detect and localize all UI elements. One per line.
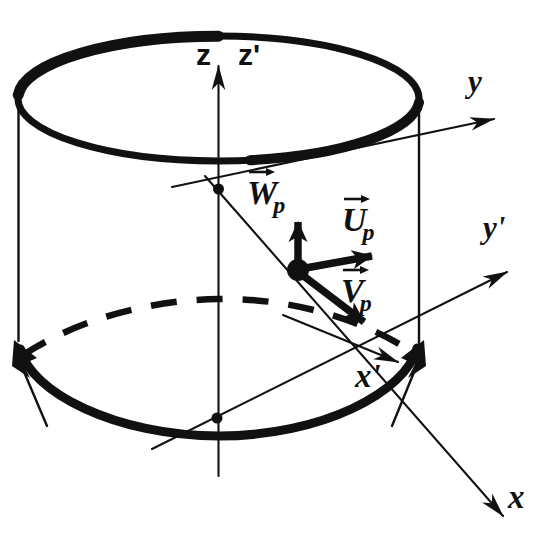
axis-label-z: z — [196, 40, 211, 70]
vector-label-v-p: Vp — [341, 274, 375, 308]
cylinder-coordinate-diagram — [0, 0, 540, 536]
vector-label-u-p: Up — [342, 203, 378, 237]
axis-label-y: y — [468, 66, 482, 97]
axis-label-x-prime: x' — [355, 360, 381, 393]
vector-overbar-arrow-icon — [344, 193, 370, 203]
axis-label-x: x — [508, 481, 525, 514]
vector-subscript-v: p — [360, 290, 372, 316]
vector-overbar-arrow-icon — [343, 264, 369, 274]
axis-label-y-prime: y' — [483, 212, 505, 243]
point-p — [287, 259, 309, 281]
vector-overbar-arrow-icon — [249, 166, 275, 176]
node-upper-axis — [213, 184, 224, 195]
vector-base-w: W — [247, 174, 276, 211]
node-lower-axis — [212, 413, 223, 424]
axis-y — [172, 119, 494, 187]
diagram-canvas: z z' y y' x x' Wp Up — [0, 0, 540, 536]
vector-subscript-w: p — [273, 192, 285, 218]
vector-subscript-u: p — [363, 219, 375, 245]
axis-label-z-prime: z' — [238, 40, 260, 70]
vector-label-w-p: Wp — [247, 176, 288, 210]
